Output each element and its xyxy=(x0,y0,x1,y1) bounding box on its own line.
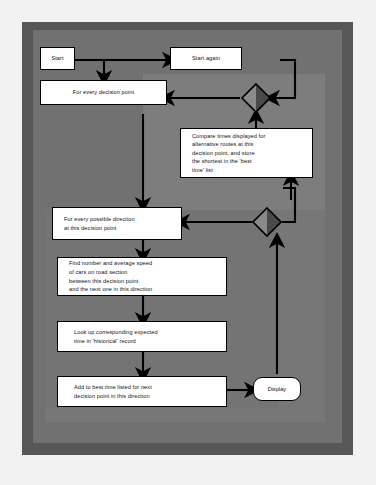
node-compare-times[interactable]: Compare times displayed for alternative … xyxy=(180,128,313,178)
node-display[interactable]: Display xyxy=(253,377,301,401)
node-start[interactable]: Start xyxy=(40,47,75,70)
flowchart-connectors xyxy=(0,0,376,485)
edge-start-again-to-decision-upper xyxy=(272,60,295,98)
node-find-number-and-speed[interactable]: Find number and average speed of cars on… xyxy=(57,257,227,296)
decision-upper[interactable] xyxy=(241,83,271,113)
node-for-every-possible-direction[interactable]: For every possible direction at this dec… xyxy=(52,207,182,240)
scanned-page: Start Start again For every decision poi… xyxy=(0,0,376,485)
node-start-again[interactable]: Start again xyxy=(170,47,242,70)
node-for-every-decision-point[interactable]: For every decision point xyxy=(40,80,167,105)
edge-decision-lower-to-compare-times-leg xyxy=(282,188,295,222)
node-look-up-expected-time[interactable]: Look up corresponding expected time in '… xyxy=(57,321,227,352)
node-add-to-best-time[interactable]: Add to best time listed for next decisio… xyxy=(57,376,227,407)
decision-lower[interactable] xyxy=(252,207,282,237)
flowchart-canvas: Start Start again For every decision poi… xyxy=(0,0,376,485)
